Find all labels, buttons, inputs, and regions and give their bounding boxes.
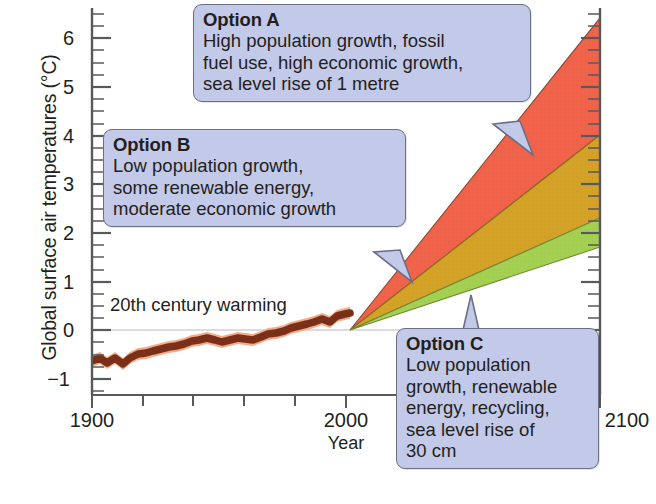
callout-option-c-line-2: growth, renewable xyxy=(406,376,589,397)
y-tick-label-5: 5 xyxy=(34,77,74,97)
callout-option-b-line-3: moderate economic growth xyxy=(113,198,396,219)
x-tick-label-1900: 1900 xyxy=(37,410,147,430)
y-tick-label-6: 6 xyxy=(34,28,74,48)
observed-temperature-line xyxy=(92,313,350,364)
callout-option-a[interactable]: Option A High population growth, fossil … xyxy=(193,4,531,102)
chart-figure: Global surface air temperatures (°C) 6 5… xyxy=(0,0,656,504)
x-axis-title: Year xyxy=(291,434,401,452)
callout-option-b-line-2: some renewable energy, xyxy=(113,177,396,198)
callout-option-c-line-4: sea level rise of xyxy=(406,419,589,440)
y-tick-label-3: 3 xyxy=(34,174,74,194)
callout-option-c-line-5: 30 cm xyxy=(406,440,589,461)
y-tick-label-0: 0 xyxy=(34,320,74,340)
callout-option-b-title: Option B xyxy=(113,134,396,155)
callout-option-c-line-1: Low population xyxy=(406,354,589,375)
callout-option-c-line-3: energy, recycling, xyxy=(406,397,589,418)
callout-option-b-line-1: Low population growth, xyxy=(113,155,396,176)
historical-warming-label: 20th century warming xyxy=(110,294,287,316)
y-tick-label-2: 2 xyxy=(34,223,74,243)
y-tick-label-neg1: −1 xyxy=(30,369,70,389)
callout-c-pointer xyxy=(463,295,479,330)
callout-option-a-line-2: fuel use, high economic growth, xyxy=(203,52,521,73)
callout-option-c[interactable]: Option C Low population growth, renewabl… xyxy=(396,328,599,469)
callout-option-b[interactable]: Option B Low population growth, some ren… xyxy=(103,129,406,227)
x-tick-label-2000: 2000 xyxy=(291,410,401,430)
callout-option-b-body: Low population growth, some renewable en… xyxy=(113,155,396,219)
y-tick-label-1: 1 xyxy=(34,272,74,292)
callout-option-a-body: High population growth, fossil fuel use,… xyxy=(203,30,521,94)
y-axis-title: Global surface air temperatures (°C) xyxy=(38,13,61,403)
y-tick-label-4: 4 xyxy=(34,126,74,146)
callout-option-a-line-3: sea level rise of 1 metre xyxy=(203,73,521,94)
callout-option-a-line-1: High population growth, fossil xyxy=(203,30,521,51)
callout-option-a-title: Option A xyxy=(203,9,521,30)
callout-option-c-title: Option C xyxy=(406,333,589,354)
callout-option-c-body: Low population growth, renewable energy,… xyxy=(406,354,589,461)
